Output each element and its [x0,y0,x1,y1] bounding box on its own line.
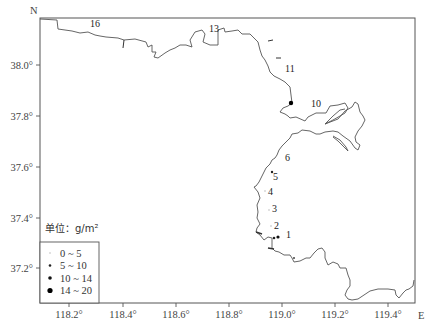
x-tick-label: 118.4° [109,309,136,320]
sample-point-4 [264,190,266,192]
legend-dot-icon [49,264,52,267]
sample-point-1a [273,237,276,240]
station-label-13: 13 [209,23,219,34]
coast-spit [268,248,274,249]
legend-unit-label: 单位：g/m² [45,222,98,234]
map-figure: N E 118.2°118.4°118.6°118.8°119.0°119.2°… [0,0,432,330]
coast-spit [268,40,273,41]
legend-dot-icon [48,276,52,280]
legend-item-label: 10 ~ 14 [60,273,93,284]
station-label-4: 4 [268,186,273,197]
sample-point-extra [293,257,295,259]
station-label-16: 16 [90,18,100,29]
x-tick-label: 119.4° [374,309,401,320]
station-label-1: 1 [286,229,291,240]
x-axis-ticks: 118.2°118.4°118.6°118.8°119.0°119.2°119.… [55,303,401,320]
x-tick-label: 118.8° [215,309,242,320]
y-tick-label: 37.4° [10,213,33,224]
coast-spit [123,40,124,48]
sample-point-10 [289,101,293,105]
y-tick-label: 37.2° [10,263,33,274]
sample-point-2 [270,225,272,227]
bay-inlet [325,109,345,124]
sample-point-1b [276,235,279,238]
legend-dot-icon [49,252,51,254]
station-labels: 12345610111316 [90,18,321,240]
station-label-6: 6 [285,152,290,163]
x-tick-label: 119.0° [268,309,295,320]
y-axis-ticks: 38.0°37.8°37.6°37.4°37.2° [10,60,40,274]
north-label: N [30,5,38,16]
station-label-10: 10 [311,98,321,109]
station-label-11: 11 [285,63,295,74]
legend-item-label: 14 ~ 20 [60,285,92,296]
y-tick-label: 37.8° [10,111,33,122]
legend-item-label: 0 ~ 5 [60,248,81,259]
y-tick-label: 37.6° [10,162,33,173]
x-tick-label: 118.6° [162,309,189,320]
x-tick-label: 119.2° [321,309,348,320]
legend-item-label: 5 ~ 10 [60,260,87,271]
y-tick-label: 38.0° [10,60,33,71]
legend-dot-icon [47,288,52,293]
x-tick-label: 118.2° [55,309,82,320]
station-label-5: 5 [273,171,278,182]
sample-point-3 [268,209,270,211]
station-label-2: 2 [274,220,279,231]
coast-spit [256,232,262,234]
east-label: E [418,310,424,321]
station-label-3: 3 [272,203,277,214]
